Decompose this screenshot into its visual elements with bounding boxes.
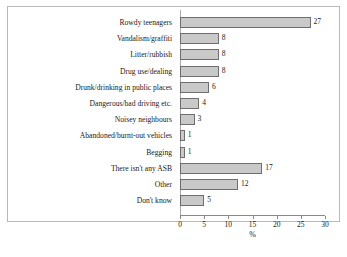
bar-value-label: 8 <box>222 32 226 44</box>
bar-row: Drunk/drinking in public places6 <box>180 80 325 96</box>
bar <box>180 195 204 206</box>
category-label: Vandalism/graffiti <box>0 31 176 46</box>
category-label: Begging <box>0 145 176 160</box>
bar-row: Rowdy teenagers27 <box>180 15 325 31</box>
bar-row: Begging1 <box>180 145 325 161</box>
category-label: Noisey neighbours <box>0 112 176 127</box>
bar-row: Other12 <box>180 177 325 193</box>
chart-figure: Rowdy teenagers27Vandalism/graffiti8Litt… <box>0 0 347 257</box>
bar <box>180 98 199 109</box>
bar-row: Noisey neighbours3 <box>180 112 325 128</box>
bar-value-label: 12 <box>241 178 249 190</box>
bar-value-label: 8 <box>222 65 226 77</box>
x-tick-mark <box>204 216 205 219</box>
bar-row: There isn't any ASB17 <box>180 161 325 177</box>
bar <box>180 82 209 93</box>
bar <box>180 179 238 190</box>
plot-area: Rowdy teenagers27Vandalism/graffiti8Litt… <box>180 10 325 215</box>
category-label: Don't know <box>0 193 176 208</box>
x-tick-label: 5 <box>202 220 206 230</box>
bar <box>180 49 219 60</box>
bar-value-label: 3 <box>198 113 202 125</box>
bar-row: Litter/rubbish8 <box>180 47 325 63</box>
category-label: Litter/rubbish <box>0 47 176 62</box>
x-tick-mark <box>277 216 278 219</box>
bar-row: Drug use/dealing8 <box>180 64 325 80</box>
x-axis-title: % <box>180 230 325 239</box>
x-tick-mark <box>228 216 229 219</box>
bar-value-label: 5 <box>207 194 211 206</box>
bar <box>180 147 185 158</box>
bar-row: Dangerous/bad driving etc.4 <box>180 96 325 112</box>
bar-value-label: 27 <box>314 16 322 28</box>
bar-row: Vandalism/graffiti8 <box>180 31 325 47</box>
bar <box>180 33 219 44</box>
x-tick-mark <box>301 216 302 219</box>
bar-value-label: 6 <box>212 81 216 93</box>
bar <box>180 163 262 174</box>
category-label: Rowdy teenagers <box>0 15 176 30</box>
x-tick-mark <box>253 216 254 219</box>
x-tick-label: 10 <box>225 220 233 230</box>
category-label: Other <box>0 177 176 192</box>
x-tick-label: 15 <box>249 220 257 230</box>
category-label: Abandoned/burnt-out vehicles <box>0 128 176 143</box>
x-tick-label: 20 <box>273 220 281 230</box>
bar <box>180 17 311 28</box>
bar-value-label: 1 <box>188 129 192 141</box>
category-label: Dangerous/bad driving etc. <box>0 96 176 111</box>
bar-row: Abandoned/burnt-out vehicles1 <box>180 128 325 144</box>
x-axis-ticks: 051015202530 <box>180 216 325 230</box>
x-tick-mark <box>180 216 181 219</box>
category-label: Drug use/dealing <box>0 64 176 79</box>
bar-value-label: 1 <box>188 146 192 158</box>
x-tick-label: 30 <box>321 220 329 230</box>
bar <box>180 66 219 77</box>
x-tick-label: 25 <box>297 220 305 230</box>
category-label: Drunk/drinking in public places <box>0 80 176 95</box>
category-label: There isn't any ASB <box>0 161 176 176</box>
bar <box>180 130 185 141</box>
bar-value-label: 17 <box>265 162 273 174</box>
bar-value-label: 4 <box>202 97 206 109</box>
bar <box>180 114 195 125</box>
bar-row: Don't know5 <box>180 193 325 209</box>
x-tick-label: 0 <box>178 220 182 230</box>
x-tick-mark <box>325 216 326 219</box>
bar-value-label: 8 <box>222 48 226 60</box>
